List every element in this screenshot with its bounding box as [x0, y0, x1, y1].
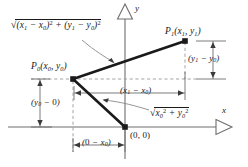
delta-x-label: (x1 − x0): [120, 86, 151, 96]
distance-formula-figure: y x √(x1 − x0)2 + (y1 − y0)2 P1(x1, y1) …: [0, 0, 248, 167]
arrowhead-dy-down-icon: [210, 72, 215, 78]
leader-lines-group: [82, 40, 149, 110]
arrowhead-y0-up-icon: [37, 80, 42, 86]
arrowhead-x0-right-icon: [118, 142, 124, 147]
leader-distance-formula: [82, 40, 113, 62]
y0-minus-zero-label: (y0 − 0): [31, 98, 60, 108]
delta-y-label: (y1 − y0): [188, 54, 219, 64]
point-label-p0: P0(x0, y0): [31, 62, 67, 72]
point-marker-p1: [182, 38, 188, 44]
arrowhead-y0-down-icon: [37, 120, 42, 126]
leader-distance-origin: [104, 100, 149, 110]
leader-arrowhead-distance-origin-icon: [103, 98, 110, 103]
distance-p0-origin-label: √x02 + y02: [150, 108, 189, 119]
point-marker-origin: [122, 124, 128, 130]
y-axis-arrowhead-icon: [118, 4, 133, 19]
leader-arrowhead-distance-formula-icon: [108, 58, 114, 63]
x-axis-arrowhead-icon: [216, 120, 232, 135]
arrowhead-dx-left-icon: [75, 90, 81, 95]
arrowhead-dx-right-icon: [178, 90, 184, 95]
point-label-p1: P1(x1, y1): [165, 27, 201, 37]
origin-label: (0, 0): [130, 131, 150, 140]
arrowhead-x0-left-icon: [74, 142, 80, 147]
x-axis-label: x: [222, 106, 226, 115]
arrowhead-dy-up-icon: [210, 42, 215, 48]
point-marker-p0: [70, 76, 76, 82]
distance-p0-p1-label: √(x1 − x0)2 + (y1 − y0)2: [11, 20, 101, 31]
segment-p0-to-origin: [73, 79, 125, 127]
zero-minus-x0-label: (0 − x0): [82, 138, 111, 148]
y-axis-label: y: [135, 4, 139, 13]
